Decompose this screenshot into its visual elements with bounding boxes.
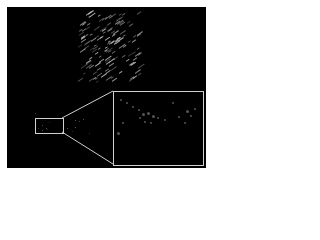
magnified-particle [122, 122, 124, 124]
magnified-particle [190, 115, 192, 117]
magnified-particle [132, 106, 134, 108]
magnified-particle [126, 102, 128, 104]
magnified-particle [150, 122, 152, 124]
magnified-particle [147, 112, 150, 115]
magnified-particle [142, 113, 145, 116]
magnified-particle [138, 109, 140, 111]
magnified-particle [194, 108, 196, 110]
magnified-particle [117, 132, 120, 135]
magnified-particle [157, 117, 159, 119]
magnified-particle [172, 102, 174, 104]
magnified-particle [178, 116, 180, 118]
magnified-particle [152, 115, 155, 118]
magnified-particle [144, 121, 146, 123]
magnified-particle [186, 110, 189, 113]
magnified-particle [120, 99, 122, 101]
magnified-particle [139, 117, 141, 119]
zoom-inset [113, 91, 204, 166]
magnified-particle [164, 119, 166, 121]
magnified-particle [184, 122, 186, 124]
